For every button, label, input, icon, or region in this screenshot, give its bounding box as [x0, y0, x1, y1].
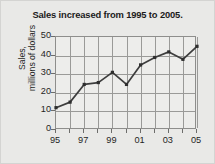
x-axis-ticks: 959799010305 — [0, 0, 215, 164]
x-axis-tick-mark — [55, 129, 56, 133]
x-axis-tick-mark — [168, 129, 169, 133]
x-axis-tick-label: 05 — [185, 135, 207, 145]
x-axis-tick-mark — [83, 129, 84, 133]
x-axis-tick-mark — [196, 129, 197, 133]
x-axis-tick-mark — [140, 129, 141, 133]
x-axis-tick-mark — [111, 129, 112, 133]
x-axis-tick-mark — [126, 129, 127, 133]
x-axis-tick-mark — [69, 129, 70, 133]
x-axis-tick-mark — [97, 129, 98, 133]
x-axis-tick-mark — [154, 129, 155, 133]
x-axis-tick-mark — [182, 129, 183, 133]
x-axis-tick-label: 95 — [44, 135, 66, 145]
chart-figure: Sales increased from 1995 to 2005. Sales… — [0, 0, 215, 164]
x-axis-tick-label: 01 — [129, 135, 151, 145]
x-axis-tick-label: 99 — [100, 135, 122, 145]
x-axis-tick-label: 97 — [72, 135, 94, 145]
x-axis-tick-label: 03 — [157, 135, 179, 145]
